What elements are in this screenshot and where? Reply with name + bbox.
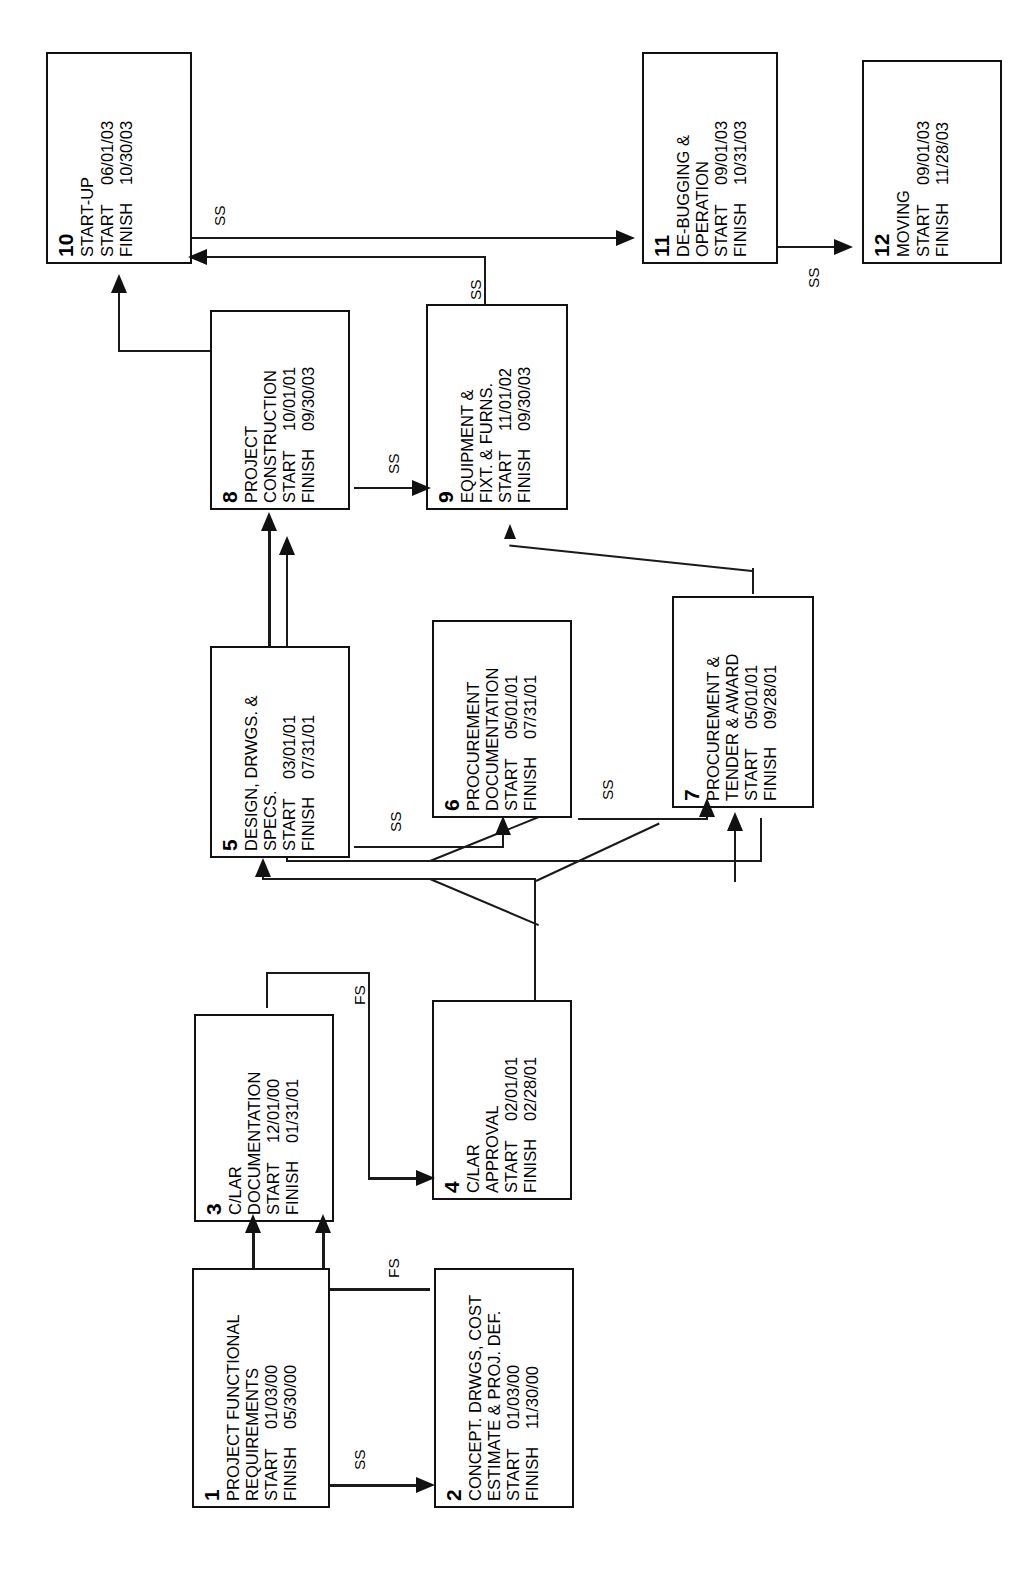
edge-4-7-segment-diag <box>536 823 660 882</box>
edge-8-10-segment-h <box>118 350 214 352</box>
activity-node-1[interactable]: 1 PROJECT FUNCTIONAL REQUIREMENTS START0… <box>192 1268 330 1508</box>
edge-1-2-arrowhead <box>416 1477 435 1493</box>
activity-node-12-finish: 11/28/03 <box>933 122 952 185</box>
finish-label: FINISH <box>933 185 952 257</box>
edge-3-4-segment-v1 <box>266 972 268 1008</box>
activity-node-9[interactable]: 9 EQUIPMENT & FIXT. & FURNS. START11/01/… <box>426 304 568 510</box>
edge-9-10-arrowhead <box>188 249 207 265</box>
activity-node-4-id: 4 <box>441 1181 463 1193</box>
edge-7-9-segment-diag <box>509 545 752 572</box>
edge-label-ss-6-7: SS <box>600 779 616 800</box>
activity-node-10-start-row: START06/01/03 <box>98 121 117 257</box>
activity-node-6-start-row: START05/01/01 <box>502 675 521 811</box>
finish-label: FINISH <box>283 1143 302 1215</box>
finish-label: FINISH <box>281 1429 300 1501</box>
finish-label: FINISH <box>117 185 136 257</box>
edge-2-3-segment-h <box>322 1288 430 1291</box>
activity-node-12-finish-row: FINISH11/28/03 <box>933 121 952 257</box>
activity-node-3[interactable]: 3 C/LAR DOCUMENTATION START12/01/00 FINI… <box>194 1014 334 1222</box>
edge-4-5-arrowhead <box>255 858 271 877</box>
activity-node-9-finish: 09/30/03 <box>515 367 534 431</box>
activity-node-4-start: 02/01/01 <box>502 1057 521 1121</box>
activity-node-4[interactable]: 4 C/LAR APPROVAL START02/01/01 FINISH02/… <box>432 1000 572 1200</box>
activity-node-12[interactable]: 12 MOVING START09/01/03 FINISH11/28/03 <box>862 60 1002 264</box>
activity-node-10[interactable]: 10 START-UP START06/01/03 FINISH10/30/03 <box>46 52 192 264</box>
activity-node-10-id: 10 <box>55 234 77 257</box>
activity-node-10-finish: 10/30/03 <box>117 121 136 185</box>
edge-5-8-arrowhead <box>261 512 277 531</box>
edge-label-fs-2-3: FS <box>386 1258 402 1278</box>
activity-node-2-finish: 11/30/00 <box>523 1366 542 1429</box>
activity-node-1-finish-row: FINISH05/30/00 <box>281 1365 300 1501</box>
activity-node-9-finish-row: FINISH09/30/03 <box>515 367 534 503</box>
activity-node-12-start: 09/01/03 <box>914 121 933 185</box>
activity-node-5-start-row: START03/01/01 <box>280 715 299 851</box>
edge-4-5-segment-h1 <box>262 878 534 880</box>
edge-label-ss-8-9: SS <box>386 453 402 474</box>
edge-6-7-arrowhead <box>699 798 715 817</box>
start-label: START <box>264 1143 283 1215</box>
activity-node-8-finish: 09/30/03 <box>299 367 318 431</box>
finish-label: FINISH <box>731 185 750 257</box>
activity-node-9-title: EQUIPMENT & FIXT. & FURNS. <box>458 383 495 503</box>
activity-node-9-id: 9 <box>435 491 457 503</box>
activity-node-11-start: 09/01/03 <box>712 121 731 185</box>
activity-node-7-finish-row: FINISH09/28/01 <box>761 665 780 801</box>
activity-node-4-title: C/LAR APPROVAL <box>464 1105 501 1193</box>
activity-node-12-id: 12 <box>871 234 893 257</box>
edge-5-6-arrowhead <box>495 816 511 835</box>
edge-10-11-segment-h <box>190 237 632 239</box>
edge-8-10-segment-v <box>118 286 120 352</box>
activity-node-4-start-row: START02/01/01 <box>502 1057 521 1193</box>
activity-node-2-finish-row: FINISH11/30/00 <box>523 1365 542 1501</box>
activity-node-2-title: CONCEPT. DRWGS, COST ESTIMATE & PROJ. DE… <box>466 1295 503 1501</box>
activity-node-3-title: C/LAR DOCUMENTATION <box>226 1072 263 1215</box>
activity-node-12-start-row: START09/01/03 <box>914 121 933 257</box>
edge-3-4-arrowhead <box>416 1170 435 1186</box>
activity-node-7[interactable]: 7 PROCUREMENT & TENDER & AWARD START05/0… <box>672 596 814 808</box>
edge-8-10-arrowhead <box>111 274 127 293</box>
activity-node-1-start-row: START01/03/00 <box>262 1365 281 1501</box>
edge-label-fs-3-4: FS <box>352 985 368 1005</box>
activity-node-11-id: 11 <box>651 235 673 257</box>
activity-node-5-start: 03/01/01 <box>280 715 299 779</box>
activity-node-10-title: START-UP <box>78 177 96 257</box>
activity-node-5-finish: 07/31/01 <box>299 715 318 779</box>
finish-label: FINISH <box>761 729 780 801</box>
finish-label: FINISH <box>515 431 534 503</box>
start-label: START <box>712 185 731 257</box>
edge-4-5-segment-diag <box>430 878 539 926</box>
activity-node-10-finish-row: FINISH10/30/03 <box>117 121 136 257</box>
activity-node-1-title: PROJECT FUNCTIONAL REQUIREMENTS <box>224 1314 261 1501</box>
activity-node-2[interactable]: 2 CONCEPT. DRWGS, COST ESTIMATE & PROJ. … <box>434 1268 574 1508</box>
start-label: START <box>502 1121 521 1193</box>
activity-node-8[interactable]: 8 PROJECT CONSTRUCTION START10/01/01 FIN… <box>210 310 350 510</box>
edge-7-9-segment-v1 <box>752 568 754 594</box>
edge-8-9-arrowhead <box>412 480 431 496</box>
activity-node-9-start: 11/01/02 <box>496 368 515 431</box>
activity-node-9-start-row: START11/01/02 <box>496 367 515 503</box>
edge-label-ss-10-11: SS <box>212 205 228 226</box>
edge-3-4-segment-h1 <box>266 972 370 974</box>
edge-3-4-segment-v2 <box>368 972 370 1178</box>
edge-6-7-segment-h <box>578 818 708 820</box>
activity-node-7-title: PROCUREMENT & TENDER & AWARD <box>704 654 741 801</box>
activity-node-3-finish: 01/31/01 <box>283 1079 302 1143</box>
activity-node-11[interactable]: 11 DE-BUGGING & OPERATION START09/01/03 … <box>642 52 778 264</box>
activity-node-5-title: DESIGN, DRWGS. & SPECS. <box>242 695 279 851</box>
activity-node-6-start: 05/01/01 <box>502 675 521 739</box>
activity-node-3-start-row: START12/01/00 <box>264 1079 283 1215</box>
edge-4-7-segment-v <box>734 824 736 882</box>
activity-node-7-start: 05/01/01 <box>742 665 761 729</box>
finish-label: FINISH <box>299 431 318 503</box>
activity-node-5[interactable]: 5 DESIGN, DRWGS. & SPECS. START03/01/01 … <box>210 646 350 858</box>
activity-node-7-start-row: START05/01/01 <box>742 665 761 801</box>
edge-2-3-arrowhead <box>315 1214 331 1233</box>
edge-label-ss-11-12: SS <box>806 267 822 288</box>
start-label: START <box>742 729 761 801</box>
activity-node-6-title: PROCUREMENT DOCUMENTATION <box>464 668 501 811</box>
activity-node-6[interactable]: 6 PROCUREMENT DOCUMENTATION START05/01/0… <box>432 620 572 818</box>
activity-node-8-start-row: START10/01/01 <box>280 367 299 503</box>
start-label: START <box>496 431 515 503</box>
activity-node-3-id: 3 <box>203 1203 225 1215</box>
